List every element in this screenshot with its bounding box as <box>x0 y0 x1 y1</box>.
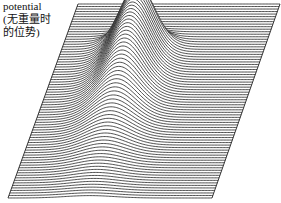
potential-surface-plot <box>0 0 281 203</box>
